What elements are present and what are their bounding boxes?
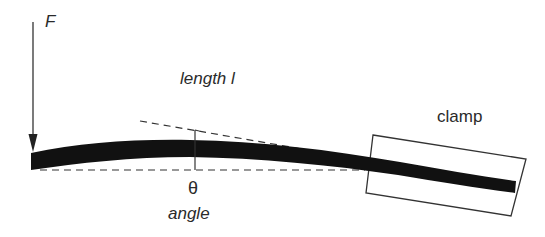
force-label: F: [45, 12, 57, 31]
clamp-label: clamp: [437, 107, 482, 126]
length-label: length l: [180, 69, 236, 88]
theta-symbol: θ: [188, 178, 198, 198]
angle-label: angle: [168, 204, 210, 223]
cantilever-diagram: F length l clamp θ angle: [0, 0, 545, 237]
force-arrow: [29, 22, 38, 152]
